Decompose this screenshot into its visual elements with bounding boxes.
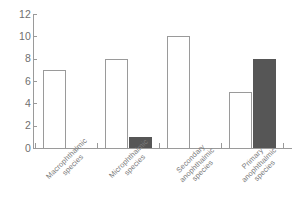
y-axis-tick-label: 0 bbox=[5, 143, 31, 154]
y-axis-tick-label-wrap: 12 bbox=[0, 9, 31, 20]
bar-chart: 024681012 Macrophthalmic speciesMicropht… bbox=[0, 0, 305, 208]
y-axis-tick-label-wrap: 2 bbox=[0, 120, 31, 131]
y-axis-tick-label: 6 bbox=[5, 76, 31, 87]
bar-open-2 bbox=[167, 36, 190, 148]
y-axis-tick bbox=[33, 36, 37, 37]
y-axis-tick-label: 8 bbox=[5, 53, 31, 64]
y-axis-tick-label: 4 bbox=[5, 98, 31, 109]
y-axis-tick bbox=[33, 126, 37, 127]
bar-open-0 bbox=[43, 70, 66, 148]
y-axis-tick-label-wrap: 6 bbox=[0, 76, 31, 87]
y-axis-tick bbox=[33, 148, 37, 149]
y-axis-tick-label: 10 bbox=[5, 31, 31, 42]
y-axis-tick-label-wrap: 10 bbox=[0, 31, 31, 42]
y-axis-tick bbox=[33, 59, 37, 60]
y-axis-tick-label-wrap: 4 bbox=[0, 98, 31, 109]
y-axis-tick bbox=[33, 14, 37, 15]
y-axis-tick bbox=[33, 81, 37, 82]
y-axis-tick-label-wrap: 0 bbox=[0, 143, 31, 154]
y-axis-tick-label: 12 bbox=[5, 9, 31, 20]
y-axis-tick bbox=[33, 103, 37, 104]
y-axis-tick-label-wrap: 8 bbox=[0, 53, 31, 64]
x-axis-tick bbox=[35, 143, 36, 148]
y-axis-tick-label: 2 bbox=[5, 120, 31, 131]
